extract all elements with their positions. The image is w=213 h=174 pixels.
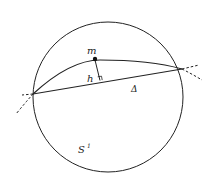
dashed-extension-left-curve bbox=[16, 94, 33, 114]
label-h: h bbox=[87, 73, 93, 84]
arc-through-m bbox=[33, 60, 182, 94]
dashed-extension-right-line bbox=[182, 65, 199, 69]
label-s: S bbox=[78, 144, 85, 155]
dashed-extension-left-line bbox=[22, 94, 33, 95]
point-m bbox=[93, 57, 97, 61]
diagram-canvas: m h Δ S 1 bbox=[0, 0, 213, 174]
label-delta: Δ bbox=[130, 84, 138, 94]
dashed-extension-right-curve bbox=[182, 69, 202, 80]
label-m: m bbox=[87, 45, 96, 56]
circle-s1 bbox=[33, 22, 183, 172]
chord-delta bbox=[33, 69, 182, 94]
label-s-superscript: 1 bbox=[87, 142, 91, 149]
height-segment-h bbox=[95, 60, 100, 81]
